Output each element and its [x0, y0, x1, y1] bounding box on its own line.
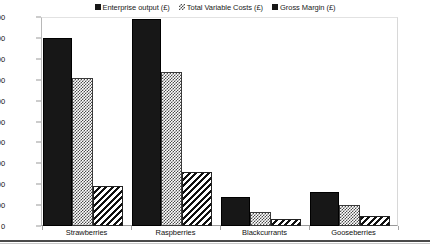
footer-rule-secondary — [0, 243, 430, 244]
legend-swatch-icon — [272, 4, 278, 10]
bar — [93, 186, 123, 226]
bar — [221, 197, 250, 226]
y-axis-tick-mark — [36, 184, 41, 185]
bar — [360, 216, 390, 226]
y-axis-tick-mark — [36, 100, 41, 101]
chart-legend: Enterprise output (£) Total Variable Cos… — [0, 1, 430, 13]
y-axis-tick-mark — [36, 205, 41, 206]
x-axis-tick-mark — [398, 226, 399, 230]
bar — [271, 219, 301, 226]
y-axis-tick-label: 8,000 — [0, 138, 5, 147]
bar-group — [221, 17, 301, 226]
bar — [310, 192, 339, 226]
bar — [161, 72, 182, 226]
legend-item-total-variable-costs: Total Variable Costs (£) — [179, 3, 263, 12]
bar — [72, 78, 93, 226]
y-axis-tick-mark — [36, 37, 41, 38]
y-axis-tick-label: 4,000 — [0, 180, 5, 189]
y-axis: 20,00018,00016,00014,00012,00010,0008,00… — [0, 0, 41, 246]
legend-swatch-icon — [95, 4, 101, 10]
y-axis-tick-label: 20,000 — [0, 13, 5, 22]
bar — [339, 205, 360, 226]
y-axis-tick-mark — [36, 79, 41, 80]
x-axis-category-label: Raspberries — [131, 228, 220, 237]
bar-group — [310, 17, 390, 226]
y-axis-tick-mark — [36, 163, 41, 164]
bar — [43, 38, 72, 226]
bar — [132, 19, 161, 226]
x-axis-category-label: Gooseberries — [309, 228, 398, 237]
y-axis-tick-label: 14,000 — [0, 75, 5, 84]
y-axis-tick-mark — [36, 17, 41, 18]
bar-chart: Enterprise output (£) Total Variable Cos… — [0, 0, 430, 246]
x-axis-category-label: Blackcurrants — [220, 228, 309, 237]
y-axis-tick-label: 2,000 — [0, 201, 5, 210]
bar — [182, 172, 212, 226]
footer-rule — [0, 240, 430, 242]
bar-group — [43, 17, 123, 226]
y-axis-tick-label: 12,000 — [0, 96, 5, 105]
y-axis-tick-mark — [36, 58, 41, 59]
y-axis-tick-mark — [36, 226, 41, 227]
bar-group — [132, 17, 212, 226]
legend-item-enterprise-output: Enterprise output (£) — [95, 3, 170, 12]
y-axis-tick-label: 0 — [1, 222, 5, 231]
y-axis-tick-mark — [36, 121, 41, 122]
y-axis-tick-label: 16,000 — [0, 54, 5, 63]
y-axis-tick-label: 10,000 — [0, 117, 5, 126]
bar — [250, 212, 271, 226]
legend-label: Gross Margin (£) — [280, 3, 335, 12]
bars-layer — [42, 17, 398, 226]
legend-label: Enterprise output (£) — [103, 3, 170, 12]
legend-swatch-icon — [179, 4, 185, 10]
y-axis-tick-mark — [36, 142, 41, 143]
y-axis-tick-label: 18,000 — [0, 33, 5, 42]
legend-label: Total Variable Costs (£) — [187, 3, 263, 12]
y-axis-tick-label: 6,000 — [0, 159, 5, 168]
legend-item-gross-margin: Gross Margin (£) — [272, 3, 335, 12]
x-axis-category-label: Strawberries — [42, 228, 131, 237]
